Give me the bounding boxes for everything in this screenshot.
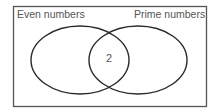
even-numbers-label: Even numbers: [17, 9, 85, 20]
intersection-value: 2: [106, 53, 112, 64]
even-numbers-ellipse: [31, 26, 129, 94]
prime-numbers-label: Prime numbers: [134, 9, 205, 20]
prime-numbers-ellipse: [89, 26, 187, 94]
